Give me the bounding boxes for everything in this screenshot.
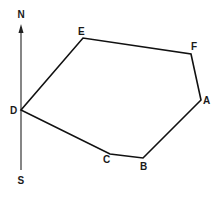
north-label: N — [18, 9, 25, 20]
vertex-label-a: A — [203, 95, 210, 106]
south-label: S — [18, 175, 25, 186]
traverse-diagram: N S A B C D E F — [0, 0, 217, 199]
vertex-label-f: F — [191, 41, 197, 52]
vertex-label-e: E — [78, 26, 85, 37]
vertex-label-d: D — [10, 105, 17, 116]
north-arrow-icon — [19, 24, 24, 33]
traverse-polygon — [21, 38, 201, 158]
vertex-label-b: B — [140, 161, 147, 172]
vertex-label-c: C — [103, 154, 110, 165]
